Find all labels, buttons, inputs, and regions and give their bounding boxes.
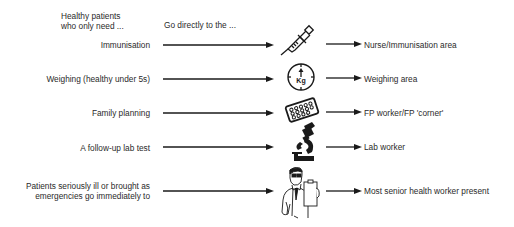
microscope-icon (290, 122, 320, 162)
need-line: emergencies go immediately to (26, 191, 150, 201)
need-label: Immunisation (101, 40, 150, 50)
syringe-icon (280, 24, 316, 56)
need-line: Patients seriously ill or brought as (26, 181, 150, 191)
arrow-to-icon (163, 41, 275, 49)
arrow-to-destination (326, 40, 364, 48)
destination-label: Most senior health worker present (364, 186, 489, 196)
header-line: who only need ... (61, 21, 124, 31)
header-healthy-patients: Healthy patients who only need ... (61, 11, 124, 31)
scale-kg-icon: Kg (286, 62, 316, 92)
need-label: Family planning (92, 108, 150, 118)
header-go-directly: Go directly to the ... (164, 20, 236, 30)
header-line: Healthy patients (61, 11, 124, 21)
arrow-to-destination (326, 187, 364, 195)
arrow-to-destination (326, 143, 364, 151)
destination-label: Lab worker (364, 142, 405, 152)
arrow-to-icon (163, 187, 275, 195)
need-label: Weighing (healthy under 5s) (46, 74, 150, 84)
arrow-to-destination (326, 108, 364, 116)
arrow-to-icon (163, 143, 275, 151)
destination-label: FP worker/FP 'corner' (364, 108, 443, 118)
pill-pack-icon (284, 97, 320, 123)
doctor-icon (280, 166, 322, 220)
arrow-to-icon (163, 109, 275, 117)
need-label-emergency: Patients seriously ill or brought as eme… (26, 181, 150, 201)
destination-label: Weighing area (364, 74, 417, 84)
arrow-to-icon (163, 75, 275, 83)
destination-label: Nurse/Immunisation area (364, 40, 457, 50)
kg-label: Kg (286, 77, 316, 85)
need-label: A follow-up lab test (80, 143, 150, 153)
arrow-to-destination (326, 74, 364, 82)
